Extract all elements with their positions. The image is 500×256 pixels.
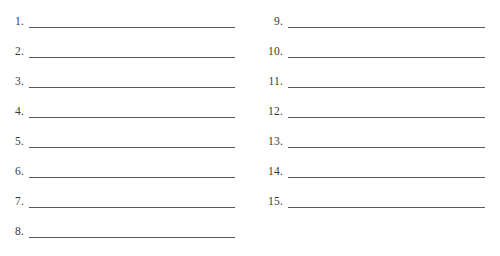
list-item[interactable]: 7. bbox=[0, 188, 250, 208]
write-in-line[interactable] bbox=[288, 87, 485, 88]
write-in-line[interactable] bbox=[288, 57, 485, 58]
list-item-number: 2. bbox=[0, 45, 24, 58]
list-item-number: 14. bbox=[250, 165, 283, 178]
list-item[interactable]: 9. bbox=[250, 8, 500, 28]
write-in-line[interactable] bbox=[288, 207, 485, 208]
list-item[interactable]: 13. bbox=[250, 128, 500, 148]
list-item-number: 12. bbox=[250, 105, 283, 118]
write-in-line[interactable] bbox=[29, 27, 235, 28]
write-in-line[interactable] bbox=[288, 27, 485, 28]
numbered-list-worksheet: 1. 2. 3. 4. 5. 6. 7. 8. bbox=[0, 0, 500, 256]
list-item-number: 5. bbox=[0, 135, 24, 148]
list-item-number: 9. bbox=[250, 15, 283, 28]
list-item[interactable]: 5. bbox=[0, 128, 250, 148]
list-item-number: 3. bbox=[0, 75, 24, 88]
list-item[interactable]: 14. bbox=[250, 158, 500, 178]
list-item-number: 15. bbox=[250, 195, 283, 208]
list-item[interactable]: 10. bbox=[250, 38, 500, 58]
list-item[interactable]: 4. bbox=[0, 98, 250, 118]
list-item-number: 11. bbox=[250, 75, 283, 88]
write-in-line[interactable] bbox=[29, 117, 235, 118]
list-item[interactable]: 6. bbox=[0, 158, 250, 178]
write-in-line[interactable] bbox=[29, 207, 235, 208]
list-item-number: 4. bbox=[0, 105, 24, 118]
list-item-number: 1. bbox=[0, 15, 24, 28]
list-item-number: 8. bbox=[0, 225, 24, 238]
list-item[interactable]: 8. bbox=[0, 218, 250, 238]
list-item-number: 7. bbox=[0, 195, 24, 208]
right-column: 9. 10. 11. 12. 13. 14. 15. bbox=[250, 0, 500, 256]
list-item[interactable]: 3. bbox=[0, 68, 250, 88]
list-item[interactable]: 12. bbox=[250, 98, 500, 118]
list-item-number: 13. bbox=[250, 135, 283, 148]
write-in-line[interactable] bbox=[29, 147, 235, 148]
write-in-line[interactable] bbox=[29, 177, 235, 178]
list-item[interactable]: 2. bbox=[0, 38, 250, 58]
list-item[interactable]: 11. bbox=[250, 68, 500, 88]
write-in-line[interactable] bbox=[29, 87, 235, 88]
left-column: 1. 2. 3. 4. 5. 6. 7. 8. bbox=[0, 0, 250, 256]
write-in-line[interactable] bbox=[29, 57, 235, 58]
list-item-number: 10. bbox=[250, 45, 283, 58]
write-in-line[interactable] bbox=[29, 237, 235, 238]
list-item[interactable]: 15. bbox=[250, 188, 500, 208]
write-in-line[interactable] bbox=[288, 147, 485, 148]
write-in-line[interactable] bbox=[288, 177, 485, 178]
list-item-number: 6. bbox=[0, 165, 24, 178]
write-in-line[interactable] bbox=[288, 117, 485, 118]
list-item[interactable]: 1. bbox=[0, 8, 250, 28]
